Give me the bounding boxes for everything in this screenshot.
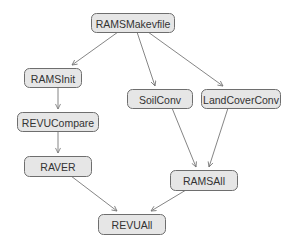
edge-raver-to-revuall (71, 176, 117, 211)
node-soilconv: SoilConv (128, 90, 193, 109)
node-revucompare: REVUCompare (18, 113, 99, 132)
flowchart-diagram: RAMSMakevfileRAMSInitSoilConvLandCoverCo… (0, 0, 292, 249)
edge-ramsmakevfile-to-ramsinit (72, 32, 118, 65)
node-ramsmakevfile: RAMSMakevfile (92, 14, 175, 33)
edge-ramsall-to-revuall (151, 190, 186, 211)
node-label: RAMSAll (183, 175, 225, 187)
node-ramsinit: RAMSInit (25, 69, 82, 88)
node-label: RAMSInit (31, 73, 75, 85)
edge-soilconv-to-ramsall (172, 108, 196, 167)
node-revuall: REVUAll (99, 215, 166, 235)
node-label: RAMSMakevfile (96, 18, 171, 30)
node-label: REVUAll (112, 219, 153, 231)
edge-ramsmakevfile-to-soilconv (137, 32, 155, 86)
node-ramsall: RAMSAll (171, 171, 238, 191)
edge-ramsmakevfile-to-landcoverconv (148, 32, 223, 86)
node-label: REVUCompare (22, 117, 95, 129)
node-label: LandCoverConv (203, 94, 280, 106)
node-landcoverconv: LandCoverConv (202, 90, 281, 109)
node-label: RAVER (40, 161, 76, 173)
edge-landcoverconv-to-ramsall (209, 108, 228, 167)
nodes-layer: RAMSMakevfileRAMSInitSoilConvLandCoverCo… (18, 14, 281, 235)
node-label: SoilConv (139, 94, 182, 106)
node-raver: RAVER (25, 157, 92, 177)
